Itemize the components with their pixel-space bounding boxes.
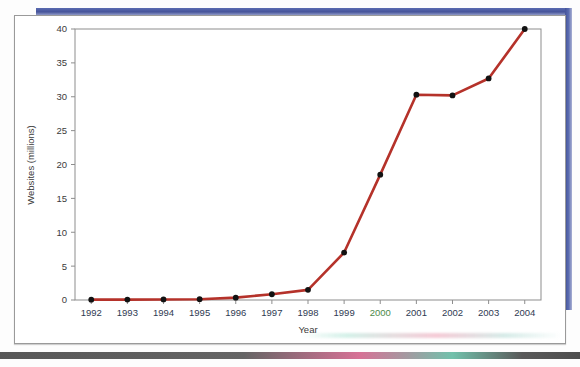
plot-area-border [75,29,541,300]
x-tick-label: 2000 [370,307,391,318]
y-tick-label: 5 [62,261,67,272]
data-point [341,250,347,256]
x-tick-label: 1997 [261,307,282,318]
x-tick-label: 1993 [117,307,138,318]
page-accent-band-top [36,8,572,15]
x-tick-label: 1994 [153,307,174,318]
y-tick-label: 30 [56,91,67,102]
scanned-page: 0510152025303540 19921993199419951996199… [0,0,580,367]
data-point [305,287,311,293]
data-point [233,295,239,301]
page-accent-band-right [565,8,572,310]
y-tick-label: 10 [56,227,67,238]
x-tick-label: 1999 [334,307,355,318]
data-point [88,297,94,303]
x-tick-label: 2001 [406,307,427,318]
x-tick-label: 1996 [225,307,246,318]
x-tick-label: 1995 [189,307,210,318]
y-tick-label: 20 [56,159,67,170]
x-tick-label: 1992 [81,307,102,318]
data-point [486,76,492,82]
page-bottom-edge [0,352,580,359]
data-point [124,297,130,303]
x-axis: 1992199319941995199619971998199920002001… [81,300,536,318]
y-axis: 0510152025303540 [56,23,75,305]
data-point [161,297,167,303]
data-point [522,26,528,32]
data-point [377,172,383,178]
x-tick-label: 1998 [297,307,318,318]
x-tick-label: 2002 [442,307,463,318]
y-tick-label: 25 [56,125,67,136]
line-chart: 0510152025303540 19921993199419951996199… [14,15,564,342]
data-point [450,92,456,98]
y-axis-title: Websites (millions) [25,125,36,205]
x-tick-label: 2003 [478,307,499,318]
y-tick-label: 40 [56,23,67,34]
x-axis-title: Year [298,324,317,335]
chart-canvas: 0510152025303540 19921993199419951996199… [14,15,564,342]
x-tick-label: 2004 [514,307,535,318]
y-tick-label: 35 [56,57,67,68]
data-point [413,92,419,98]
data-point [269,291,275,297]
y-tick-label: 0 [62,294,67,305]
y-tick-label: 15 [56,193,67,204]
data-point [197,296,203,302]
